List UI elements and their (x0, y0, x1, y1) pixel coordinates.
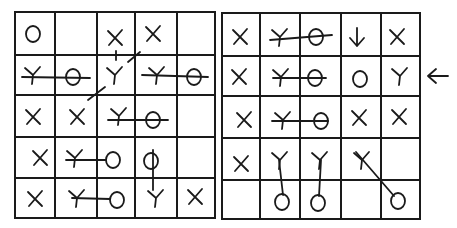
grids-canvas (0, 0, 457, 228)
y-mark (25, 67, 40, 84)
connection-line (72, 198, 110, 199)
circle-mark (26, 26, 40, 42)
circle-mark (110, 192, 124, 208)
y-mark (111, 108, 126, 125)
y-mark (312, 152, 327, 169)
cross-mark (146, 26, 160, 41)
cross-mark (233, 29, 247, 44)
left-grid (15, 12, 215, 218)
circle-mark (144, 153, 158, 169)
circle-mark (106, 152, 120, 168)
y-mark (67, 150, 82, 167)
arrow-left-icon (428, 69, 448, 83)
connection-line (356, 152, 394, 196)
cross-mark (108, 30, 122, 45)
cross-mark (390, 29, 404, 44)
cross-mark (237, 112, 251, 127)
left-grid-marks (22, 26, 208, 208)
cross-mark (352, 110, 366, 125)
y-mark (107, 67, 122, 84)
cross-mark (28, 191, 42, 206)
circle-mark (353, 71, 367, 87)
y-mark (354, 152, 369, 169)
y-mark (392, 68, 407, 85)
y-mark (148, 190, 163, 207)
cross-mark (70, 109, 84, 124)
cross-mark (234, 156, 248, 171)
y-mark (272, 29, 287, 46)
arrow-down-icon (350, 28, 364, 46)
circle-mark (275, 194, 289, 210)
cross-mark (33, 150, 47, 165)
circle-mark (311, 195, 325, 211)
connection-line (279, 160, 283, 195)
cross-mark (188, 189, 202, 204)
connection-line (22, 77, 90, 78)
cross-mark (392, 109, 406, 124)
cross-mark (232, 69, 246, 84)
connection-line (142, 75, 208, 77)
cross-mark (26, 109, 40, 124)
